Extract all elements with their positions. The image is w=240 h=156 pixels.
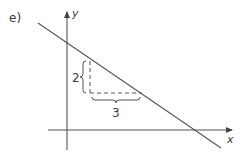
run-brace: [92, 97, 140, 103]
sloped-line: [38, 23, 221, 148]
coordinate-diagram: e) y x 2 3: [0, 0, 240, 156]
y-axis-label: y: [71, 7, 79, 20]
rise-label: 2: [72, 71, 80, 85]
part-label: e): [9, 11, 21, 25]
run-label: 3: [112, 106, 120, 120]
x-axis-label: x: [226, 133, 234, 146]
rise-brace: [80, 61, 86, 93]
